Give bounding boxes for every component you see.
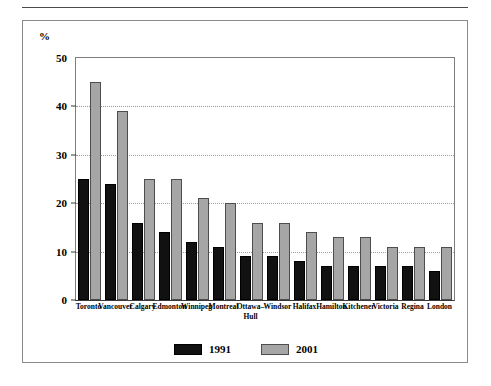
chart-canvas: % 01020304050 TorontoVancouverCalgaryEdm… <box>23 21 469 364</box>
x-tick-label: Montreal <box>209 302 239 312</box>
bar-group <box>78 58 101 300</box>
bar-group <box>132 58 155 300</box>
bar-2001-edmonton <box>171 179 182 300</box>
x-tick-label: Ottawa–Hull <box>237 302 265 322</box>
bar-group <box>267 58 290 300</box>
bar-2001-regina <box>414 247 425 300</box>
bar-group <box>294 58 317 300</box>
x-tick-label: Calgary <box>130 302 156 312</box>
x-tick-label: Windsor <box>264 302 292 312</box>
legend-swatch-2001 <box>261 344 289 355</box>
bar-group <box>159 58 182 300</box>
y-tick-label: 10 <box>56 246 67 258</box>
bar-1991-winnipeg <box>186 242 197 300</box>
bar-1991-victoria <box>375 266 386 300</box>
bar-2001-windsor <box>279 223 290 300</box>
bar-group <box>240 58 263 300</box>
bars-layer <box>76 58 454 300</box>
x-tick-label: Halifax <box>293 302 317 312</box>
legend-item-1991: 1991 <box>174 343 231 355</box>
y-tick-label: 0 <box>62 294 68 306</box>
legend-item-2001: 2001 <box>261 343 318 355</box>
bar-1991-vancouver <box>105 184 116 300</box>
x-axis-labels: TorontoVancouverCalgaryEdmontonWinnipegM… <box>75 302 453 336</box>
bar-1991-windsor <box>267 256 278 300</box>
bar-group <box>348 58 371 300</box>
y-tick-label: 40 <box>56 100 67 112</box>
legend-label-1991: 1991 <box>209 343 231 355</box>
bar-2001-montreal <box>225 203 236 300</box>
bar-group <box>321 58 344 300</box>
bar-2001-kitchener <box>360 237 371 300</box>
x-tick-label: Regina <box>401 302 424 312</box>
bar-1991-kitchener <box>348 266 359 300</box>
top-horizontal-rule <box>22 7 468 8</box>
legend-label-2001: 2001 <box>296 343 318 355</box>
x-tick-label: London <box>427 302 452 312</box>
bar-1991-regina <box>402 266 413 300</box>
x-tick-label: Winnipeg <box>181 302 212 312</box>
bar-1991-hamilton <box>321 266 332 300</box>
bar-2001-london <box>441 247 452 300</box>
bar-group <box>213 58 236 300</box>
bar-group <box>375 58 398 300</box>
bar-1991-ottawa-hull <box>240 256 251 300</box>
plot-area: 01020304050 <box>75 57 455 301</box>
bar-group <box>186 58 209 300</box>
bar-2001-vancouver <box>117 111 128 300</box>
bar-group <box>429 58 452 300</box>
y-tick-label: 20 <box>56 197 67 209</box>
bar-2001-hamilton <box>333 237 344 300</box>
x-tick-label: Kitchener <box>342 302 374 312</box>
bar-group <box>105 58 128 300</box>
bar-2001-calgary <box>144 179 155 300</box>
bar-2001-winnipeg <box>198 198 209 300</box>
legend-swatch-1991 <box>174 344 202 355</box>
bar-2001-toronto <box>90 82 101 300</box>
bar-2001-victoria <box>387 247 398 300</box>
y-tick-label: 30 <box>56 149 67 161</box>
x-tick-label: Vancouver <box>98 302 132 312</box>
bar-1991-halifax <box>294 261 305 300</box>
y-tick-label: 50 <box>56 52 67 64</box>
bar-2001-halifax <box>306 232 317 300</box>
y-axis-unit-label: % <box>39 30 50 42</box>
bar-group <box>402 58 425 300</box>
bar-1991-toronto <box>78 179 89 300</box>
bar-1991-london <box>429 271 440 300</box>
chart-legend: 1991 2001 <box>23 343 469 355</box>
bar-1991-edmonton <box>159 232 170 300</box>
bar-1991-calgary <box>132 223 143 300</box>
bar-2001-ottawa-hull <box>252 223 263 300</box>
x-tick-label: Victoria <box>373 302 399 312</box>
bar-1991-montreal <box>213 247 224 300</box>
figure-container: % 01020304050 TorontoVancouverCalgaryEdm… <box>22 20 468 363</box>
